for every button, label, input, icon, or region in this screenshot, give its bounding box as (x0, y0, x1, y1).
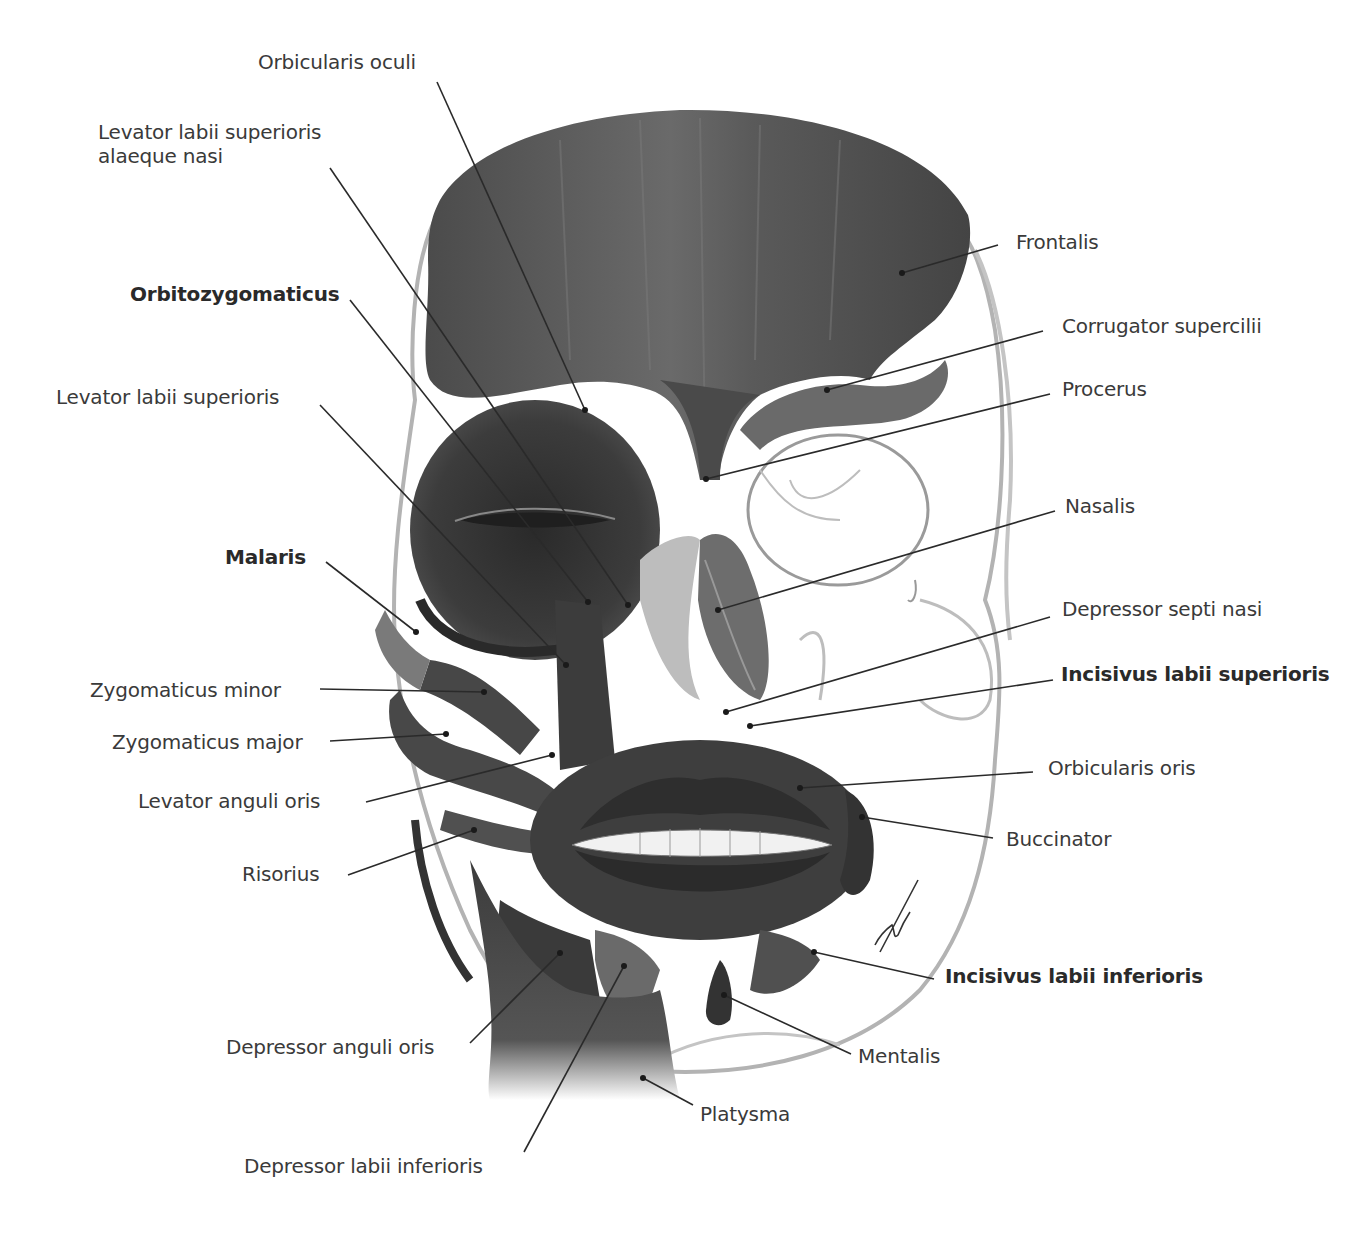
mentalis-muscle (706, 960, 732, 1025)
leader-dot-orbicularis-oculi (582, 407, 588, 413)
leader-dot-levator-anguli-oris (549, 752, 555, 758)
leader-line-incisivus-labii-inferioris (814, 952, 934, 979)
leader-dot-zygomaticus-minor (481, 689, 487, 695)
leader-line-buccinator (862, 817, 993, 838)
label-zygomaticus-major: Zygomaticus major (112, 730, 302, 754)
leader-dot-incisivus-labii-superioris (747, 723, 753, 729)
label-corrugator-supercilii: Corrugator supercilii (1062, 314, 1261, 338)
label-buccinator: Buccinator (1006, 827, 1111, 851)
leader-dot-procerus (703, 476, 709, 482)
label-nasalis: Nasalis (1065, 494, 1135, 518)
label-depressor-anguli-oris: Depressor anguli oris (226, 1035, 434, 1059)
label-orbitozygomaticus: Orbitozygomaticus (130, 282, 339, 306)
label-mentalis: Mentalis (858, 1044, 940, 1068)
leader-dot-orbitozygomaticus (585, 599, 591, 605)
label-line-2: alaeque nasi (98, 144, 321, 168)
leader-dot-buccinator (859, 814, 865, 820)
leader-dot-nasalis (715, 607, 721, 613)
orbicularis-oculi-muscle (410, 400, 660, 660)
leader-dot-mentalis (721, 992, 727, 998)
label-depressor-septi-nasi: Depressor septi nasi (1062, 597, 1262, 621)
incisivus-labii-inferioris-muscle (750, 930, 820, 994)
leader-dot-levator-labii-superioris-alaeque-nasi (625, 602, 631, 608)
leader-dot-corrugator-supercilii (824, 387, 830, 393)
label-zygomaticus-minor: Zygomaticus minor (90, 678, 281, 702)
leader-dot-zygomaticus-major (443, 731, 449, 737)
leader-dot-depressor-anguli-oris (557, 950, 563, 956)
leader-line-incisivus-labii-superioris (750, 680, 1053, 726)
artist-signature (875, 880, 918, 952)
leader-dot-frontalis (899, 270, 905, 276)
leader-dot-levator-labii-superioris (563, 662, 569, 668)
label-procerus: Procerus (1062, 377, 1147, 401)
label-frontalis: Frontalis (1016, 230, 1099, 254)
label-incisivus-labii-inferioris: Incisivus labii inferioris (945, 964, 1203, 988)
label-platysma: Platysma (700, 1102, 790, 1126)
leader-line-malaris (326, 562, 416, 632)
facial-muscles-figure: Orbicularis oculi Levator labii superior… (0, 0, 1368, 1233)
leader-dot-risorius (471, 827, 477, 833)
leader-line-nasalis (718, 511, 1055, 610)
label-orbicularis-oculi: Orbicularis oculi (258, 50, 416, 74)
label-line-1: Levator labii superioris (98, 120, 321, 144)
label-orbicularis-oris: Orbicularis oris (1048, 756, 1196, 780)
leader-line-risorius (348, 830, 474, 875)
leader-dot-orbicularis-oris (797, 785, 803, 791)
nasalis-muscle (698, 534, 769, 700)
label-levator-labii-superioris: Levator labii superioris (56, 385, 279, 409)
leader-line-depressor-septi-nasi (726, 617, 1050, 712)
label-incisivus-labii-superioris: Incisivus labii superioris (1061, 662, 1330, 686)
label-depressor-labii-inferioris: Depressor labii inferioris (244, 1154, 483, 1178)
leader-dot-depressor-septi-nasi (723, 709, 729, 715)
leader-dot-depressor-labii-inferioris (621, 963, 627, 969)
label-risorius: Risorius (242, 862, 319, 886)
leader-line-mentalis (724, 995, 851, 1054)
label-malaris: Malaris (225, 545, 306, 569)
label-levator-anguli-oris: Levator anguli oris (138, 789, 320, 813)
leader-dot-platysma (640, 1075, 646, 1081)
leader-dot-malaris (413, 629, 419, 635)
leader-dot-incisivus-labii-inferioris (811, 949, 817, 955)
label-levator-labii-superioris-alaeque-nasi: Levator labii superioris alaeque nasi (98, 120, 321, 168)
